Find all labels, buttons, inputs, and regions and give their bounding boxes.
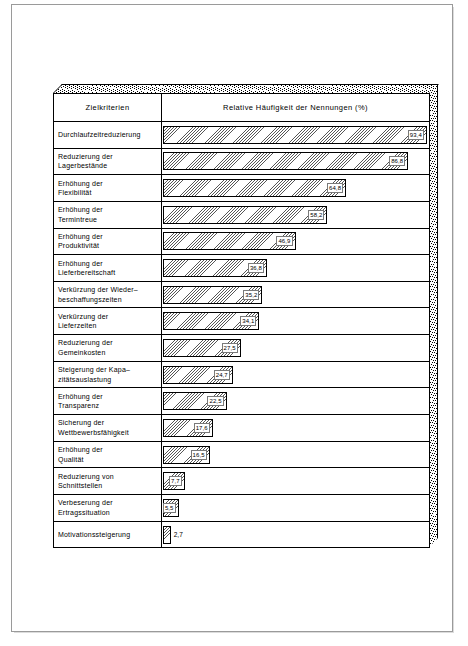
criterion-label-line: Produktivität bbox=[58, 241, 161, 251]
value-bar: 16,5 bbox=[163, 446, 210, 464]
bar-value-label: 16,5 bbox=[191, 450, 207, 460]
row-criterion-label: Erhöhung derFlexibilität bbox=[54, 175, 162, 201]
table-body: Durchlaufzeitreduzierung93,4Reduzierung … bbox=[54, 122, 429, 548]
criterion-label-line: Erhöhung der bbox=[58, 205, 161, 215]
row-criterion-label: Erhöhung derQualität bbox=[54, 442, 162, 468]
criterion-label-line: Verkürzung der bbox=[58, 312, 161, 322]
row-criterion-label: Reduzierung derLagerbestände bbox=[54, 149, 162, 175]
table-row: Verkürzung der Wieder–beschaffungszeiten… bbox=[54, 282, 429, 309]
row-plot-area: 5,5 bbox=[162, 495, 429, 521]
table-header-row: Zielkriterien Relative Häufigkeit der Ne… bbox=[54, 94, 429, 122]
criterion-label-line: Reduzierung der bbox=[58, 338, 161, 348]
criterion-label-line: Sicherung der bbox=[58, 418, 161, 428]
value-bar: 24,7 bbox=[163, 366, 233, 384]
row-plot-area: 24,7 bbox=[162, 362, 429, 388]
criterion-label-line: Reduzierung von bbox=[58, 472, 161, 482]
value-bar: 58,2 bbox=[163, 206, 327, 224]
criterion-label-line: Lagerbestände bbox=[58, 161, 161, 171]
table-row: Erhöhung derQualität16,5 bbox=[54, 442, 429, 469]
header-criteria: Zielkriterien bbox=[54, 94, 162, 121]
table-row: Steigerung der Kapa–zitätsauslastung24,7 bbox=[54, 362, 429, 389]
frequency-table: Zielkriterien Relative Häufigkeit der Ne… bbox=[53, 93, 430, 548]
criterion-label-line: beschaffungszeiten bbox=[58, 295, 161, 305]
bar-value-label: 93,4 bbox=[408, 130, 424, 140]
table-row: Durchlaufzeitreduzierung93,4 bbox=[54, 122, 429, 149]
table-row: Erhöhung derProduktivität46,9 bbox=[54, 229, 429, 256]
row-plot-area: 34,1 bbox=[162, 308, 429, 334]
row-criterion-label: Verkürzung der Wieder–beschaffungszeiten bbox=[54, 282, 162, 308]
criterion-label-line: zitätsauslastung bbox=[58, 375, 161, 385]
criterion-label-line: Gemeinkosten bbox=[58, 348, 161, 358]
criterion-label-line: Erhöhung der bbox=[58, 445, 161, 455]
bar-value-label: 24,7 bbox=[214, 370, 230, 380]
row-plot-area: 7,7 bbox=[162, 468, 429, 494]
header-frequency: Relative Häufigkeit der Nennungen (%) bbox=[162, 94, 429, 121]
row-plot-area: 17,6 bbox=[162, 415, 429, 441]
value-bar: 64,8 bbox=[163, 179, 346, 197]
row-plot-area: 46,9 bbox=[162, 229, 429, 255]
criterion-label-line: Qualität bbox=[58, 455, 161, 465]
criterion-label-line: Erhöhung der bbox=[58, 232, 161, 242]
row-criterion-label: Motivationssteigerung bbox=[54, 522, 162, 549]
row-criterion-label: Erhöhung derTransparenz bbox=[54, 388, 162, 414]
table-row: Reduzierung derGemeinkosten27,5 bbox=[54, 335, 429, 362]
row-plot-area: 36,8 bbox=[162, 255, 429, 281]
value-bar: 36,8 bbox=[163, 259, 267, 277]
criterion-label-line: Steigerung der Kapa– bbox=[58, 365, 161, 375]
criterion-label-line: Schnittstellen bbox=[58, 481, 161, 491]
row-criterion-label: Erhöhung derLieferbereitschaft bbox=[54, 255, 162, 281]
bar-value-label: 58,2 bbox=[308, 210, 324, 220]
value-bar: 7,7 bbox=[163, 472, 185, 490]
criterion-label-line: Erhöhung der bbox=[58, 179, 161, 189]
table-row: Sicherung derWettbewerbsfähigkeit17,6 bbox=[54, 415, 429, 442]
bar-value-label: 86,8 bbox=[389, 156, 405, 166]
row-criterion-label: Erhöhung derTermintreue bbox=[54, 202, 162, 228]
bar-value-label: 2,7 bbox=[173, 531, 184, 539]
page-frame: Zielkriterien Relative Häufigkeit der Ne… bbox=[11, 4, 453, 632]
value-bar: 46,9 bbox=[163, 232, 296, 250]
row-plot-area: 58,2 bbox=[162, 202, 429, 228]
row-criterion-label: Verkürzung derLieferzeiten bbox=[54, 308, 162, 334]
criterion-label-line: Reduzierung der bbox=[58, 152, 161, 162]
criterion-label-line: Verbeserung der bbox=[58, 498, 161, 508]
criterion-label-line: Erhöhung der bbox=[58, 259, 161, 269]
row-criterion-label: Steigerung der Kapa–zitätsauslastung bbox=[54, 362, 162, 388]
table-row: Reduzierung vonSchnittstellen7,7 bbox=[54, 468, 429, 495]
bar-value-label: 36,8 bbox=[248, 263, 264, 273]
row-plot-area: 35,2 bbox=[162, 282, 429, 308]
criterion-label-line: Ertragssituation bbox=[58, 508, 161, 518]
row-plot-area: 16,5 bbox=[162, 442, 429, 468]
value-bar: 34,1 bbox=[163, 312, 259, 330]
row-plot-area: 2,7 bbox=[162, 522, 429, 549]
row-plot-area: 22,5 bbox=[162, 388, 429, 414]
criterion-label-line: Flexibilität bbox=[58, 188, 161, 198]
table-row: Erhöhung derTransparenz22,5 bbox=[54, 388, 429, 415]
criterion-label-line: Verkürzung der Wieder– bbox=[58, 285, 161, 295]
criterion-label-line: Transparenz bbox=[58, 401, 161, 411]
row-plot-area: 64,8 bbox=[162, 175, 429, 201]
chart-3d-block: Zielkriterien Relative Häufigkeit der Ne… bbox=[53, 84, 438, 550]
value-bar: 35,2 bbox=[163, 286, 262, 304]
row-criterion-label: Durchlaufzeitreduzierung bbox=[54, 122, 162, 148]
criterion-label-line: Durchlaufzeitreduzierung bbox=[58, 130, 161, 140]
criterion-label-line: Wettbewerbsfähigkeit bbox=[58, 428, 161, 438]
table-row: Erhöhung derFlexibilität64,8 bbox=[54, 175, 429, 202]
criterion-label-line: Lieferzeiten bbox=[58, 321, 161, 331]
table-row: Erhöhung derLieferbereitschaft36,8 bbox=[54, 255, 429, 282]
table-row: Motivationssteigerung2,7 bbox=[54, 522, 429, 549]
bar-value-label: 35,2 bbox=[243, 290, 259, 300]
value-bar: 27,5 bbox=[163, 339, 241, 357]
row-criterion-label: Reduzierung derGemeinkosten bbox=[54, 335, 162, 361]
criterion-label-line: Termintreue bbox=[58, 215, 161, 225]
row-criterion-label: Reduzierung vonSchnittstellen bbox=[54, 468, 162, 494]
table-row: Erhöhung derTermintreue58,2 bbox=[54, 202, 429, 229]
row-criterion-label: Erhöhung derProduktivität bbox=[54, 229, 162, 255]
bar-value-label: 5,5 bbox=[163, 503, 176, 513]
value-bar: 17,6 bbox=[163, 419, 213, 437]
bar-value-label: 64,8 bbox=[327, 183, 343, 193]
criterion-label-line: Erhöhung der bbox=[58, 392, 161, 402]
table-row: Verbeserung derErtragssituation5,5 bbox=[54, 495, 429, 522]
row-criterion-label: Verbeserung derErtragssituation bbox=[54, 495, 162, 521]
criterion-label-line: Motivationssteigerung bbox=[58, 530, 161, 540]
table-top-bevel bbox=[53, 84, 439, 93]
